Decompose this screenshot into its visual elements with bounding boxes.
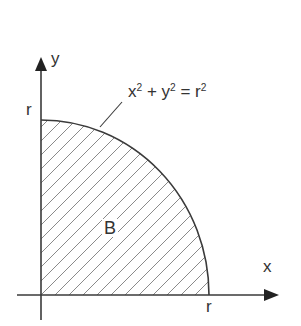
eq-x: x — [128, 82, 137, 101]
x-intercept-label: r — [206, 298, 212, 315]
eq-x-exponent: 2 — [137, 82, 143, 93]
region-label: B — [102, 219, 118, 237]
y-intercept-label: r — [26, 101, 32, 118]
y-axis-label: y — [51, 50, 60, 67]
eq-r-exponent: 2 — [201, 82, 207, 93]
hatch-pattern — [0, 95, 301, 295]
circle-equation: x2 + y2 = r2 — [128, 83, 206, 100]
eq-r: r — [195, 82, 201, 101]
quarter-circle-diagram — [0, 0, 301, 326]
eq-y-exponent: 2 — [170, 82, 176, 93]
x-axis-arrow-icon — [264, 289, 279, 301]
eq-y: y — [162, 82, 171, 101]
y-axis-arrow-icon — [35, 57, 47, 71]
equation-leader-line — [100, 102, 122, 127]
eq-equals: = — [176, 82, 195, 101]
eq-plus: + — [142, 82, 161, 101]
x-axis-label: x — [263, 258, 272, 275]
